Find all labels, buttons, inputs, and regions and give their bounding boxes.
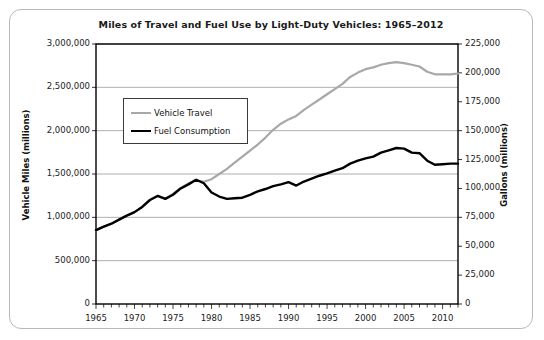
right-tick-label: 200,000 bbox=[465, 67, 525, 77]
legend-label-fuel-consumption: Fuel Consumption bbox=[154, 126, 230, 136]
left-tick-label: 2,500,000 bbox=[14, 81, 90, 91]
right-tick-label: 50,000 bbox=[465, 240, 525, 250]
x-tick-label: 1995 bbox=[307, 313, 347, 323]
x-tick-label: 1990 bbox=[269, 313, 309, 323]
x-minor-ticks bbox=[96, 304, 458, 309]
left-tick-label: 1,500,000 bbox=[14, 168, 90, 178]
right-tick-label: 225,000 bbox=[465, 38, 525, 48]
x-tick-label: 1980 bbox=[192, 313, 232, 323]
x-tick-label: 1965 bbox=[76, 313, 116, 323]
gridlines bbox=[96, 44, 458, 261]
right-tick-label: 25,000 bbox=[465, 269, 525, 279]
x-tick-label: 2005 bbox=[384, 313, 424, 323]
left-axis-title: Vehicle Miles (millions) bbox=[21, 105, 31, 225]
x-tick-label: 2010 bbox=[423, 313, 463, 323]
right-axis-title: Gallons (millions) bbox=[499, 105, 509, 225]
series-line-fuel-consumption bbox=[96, 148, 458, 230]
right-tick-label: 100,000 bbox=[465, 182, 525, 192]
x-tick-label: 1985 bbox=[230, 313, 270, 323]
plot-area: Vehicle Miles (millions) Gallons (millio… bbox=[10, 10, 534, 330]
left-tick-label: 2,000,000 bbox=[14, 125, 90, 135]
legend-item-vehicle-travel: Vehicle Travel bbox=[131, 107, 212, 119]
right-tick-label: 125,000 bbox=[465, 154, 525, 164]
right-tick-label: 150,000 bbox=[465, 125, 525, 135]
legend-label-vehicle-travel: Vehicle Travel bbox=[154, 108, 212, 118]
right-tick-label: 75,000 bbox=[465, 211, 525, 221]
left-tick-label: 500,000 bbox=[14, 255, 90, 265]
left-tick-label: 1,000,000 bbox=[14, 211, 90, 221]
x-tick-label: 2000 bbox=[346, 313, 386, 323]
x-tick-label: 1975 bbox=[153, 313, 193, 323]
legend-line-swatch-fuel-consumption bbox=[131, 130, 151, 132]
right-tick-label: 0 bbox=[465, 298, 525, 308]
chart-figure: Miles of Travel and Fuel Use by Light-Du… bbox=[9, 9, 533, 329]
legend-line-swatch-vehicle-travel bbox=[131, 112, 151, 114]
left-tick-label: 0 bbox=[14, 298, 90, 308]
legend-item-fuel-consumption: Fuel Consumption bbox=[131, 125, 230, 137]
left-tick-label: 3,000,000 bbox=[14, 38, 90, 48]
right-tick-label: 175,000 bbox=[465, 96, 525, 106]
x-tick-label: 1970 bbox=[115, 313, 155, 323]
chart-legend: Vehicle Travel Fuel Consumption bbox=[123, 98, 248, 144]
